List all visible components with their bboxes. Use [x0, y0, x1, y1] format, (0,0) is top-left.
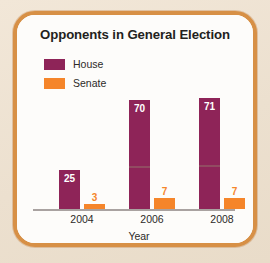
chart-frame: Opponents in General Election House Sena… [13, 11, 257, 247]
bar-value-senate: 7 [224, 186, 245, 197]
bar-senate [154, 198, 175, 209]
bar-senate [224, 198, 245, 209]
bar-value-house: 25 [59, 173, 80, 184]
scan-artifact [129, 166, 150, 168]
x-axis-title: Year [35, 230, 243, 242]
legend-swatch-house-icon [44, 59, 65, 70]
x-tick-label: 2008 [191, 213, 253, 225]
x-axis-tick-labels: 200420062008 [35, 213, 243, 229]
bar-value-house: 70 [129, 103, 150, 114]
bar-group: 707 [121, 87, 183, 209]
bar-house [129, 100, 150, 209]
bar-value-senate: 7 [154, 186, 175, 197]
plot-area: 253707717 [35, 87, 243, 209]
legend-item-house: House [44, 57, 106, 72]
bar-group: 253 [51, 87, 113, 209]
x-tick-label: 2004 [51, 213, 113, 225]
bar-value-house: 71 [199, 101, 220, 112]
legend-label-house: House [73, 59, 103, 70]
chart-page: Opponents in General Election House Sena… [0, 0, 270, 263]
chart-card: Opponents in General Election House Sena… [17, 15, 253, 243]
scan-artifact [199, 165, 220, 167]
x-tick-label: 2006 [121, 213, 183, 225]
chart-title: Opponents in General Election [17, 27, 253, 42]
x-axis-line [33, 209, 235, 211]
bar-house [199, 98, 220, 209]
bar-group: 717 [191, 87, 253, 209]
bar-value-senate: 3 [84, 192, 105, 203]
